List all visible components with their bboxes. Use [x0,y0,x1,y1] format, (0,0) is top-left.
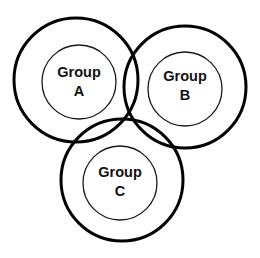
group-c-outer-circle [61,119,183,241]
group-c-label-line2: C [115,183,126,199]
group-b-label-line1: Group [163,68,207,84]
group-a-outer-circle [14,18,138,142]
group-a-label-line1: Group [57,64,101,80]
group-b-label-line2: B [180,87,190,103]
group-c: Group C [61,119,183,241]
group-b: Group B [124,26,246,148]
venn-diagram: Group A Group B Group C [0,0,260,258]
group-a-label-line2: A [74,83,85,99]
venn-svg: Group A Group B Group C [0,0,260,258]
group-a: Group A [14,18,138,142]
group-c-label-line1: Group [98,164,142,180]
group-a-inner-circle [42,45,116,119]
